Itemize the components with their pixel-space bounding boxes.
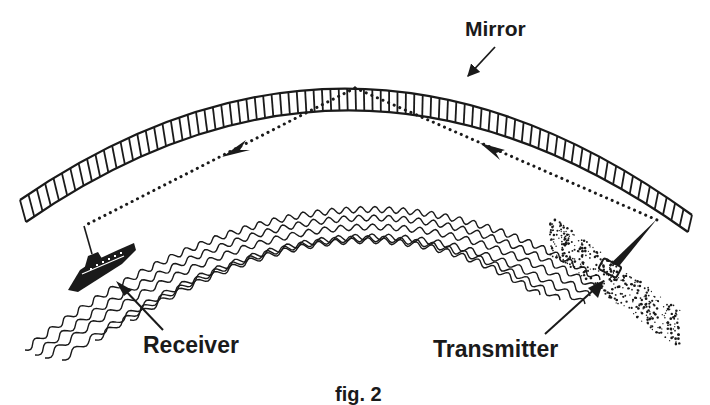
receiver-antenna-mast <box>84 226 92 254</box>
transmitter-pointer-arrow <box>545 280 604 334</box>
mirror-pointer-arrow <box>468 47 495 76</box>
mirror-label: Mirror <box>465 18 526 39</box>
transmitter-label: Transmitter <box>433 338 558 361</box>
receiver-label: Receiver <box>143 334 239 357</box>
receiver-ship <box>68 226 136 292</box>
incident-ray <box>355 88 657 220</box>
figure-caption: fig. 2 <box>335 384 382 404</box>
